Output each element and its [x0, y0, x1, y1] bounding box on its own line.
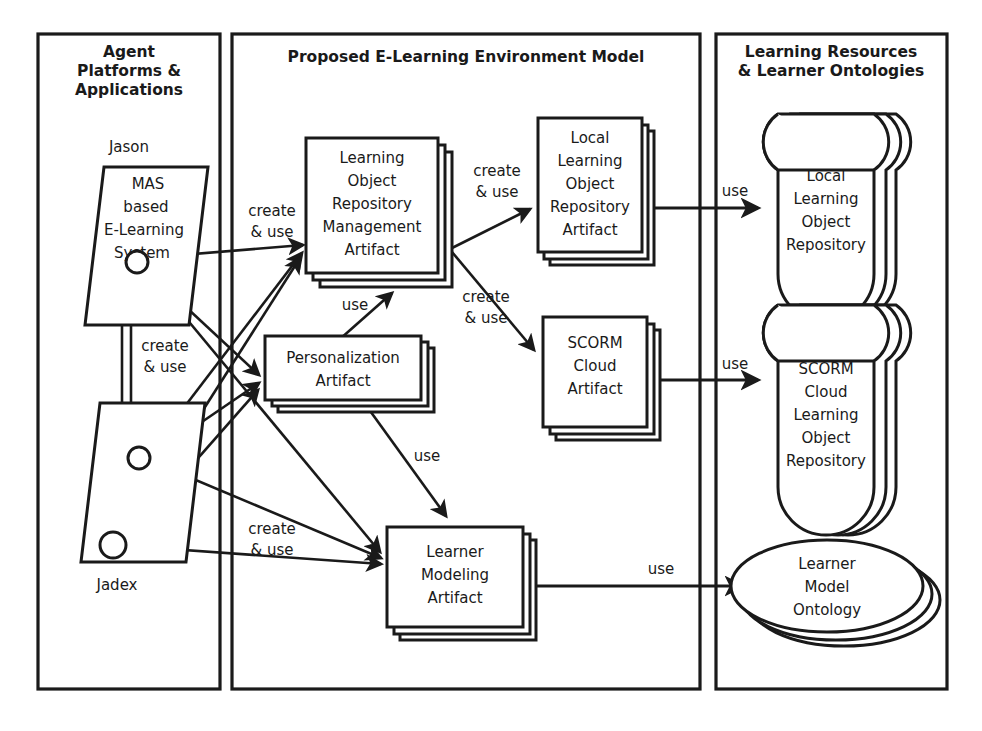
svg-text:Management: Management: [323, 218, 422, 236]
svg-text:& Learner Ontologies: & Learner Ontologies: [738, 62, 924, 80]
artifact-personalization[interactable]: Personalization Artifact: [265, 336, 434, 412]
svg-text:Local: Local: [807, 167, 846, 185]
svg-text:Artifact: Artifact: [562, 221, 617, 239]
svg-text:& use: & use: [250, 541, 293, 559]
edge-label-scorm-artifact-to-scorm-repo: use: [722, 355, 749, 373]
artifact-learner-modeling[interactable]: Learner Modeling Artifact: [387, 527, 536, 640]
svg-text:& use: & use: [464, 309, 507, 327]
svg-text:Platforms &: Platforms &: [77, 62, 181, 80]
svg-text:Learning Resources: Learning Resources: [745, 43, 917, 61]
edge-label-local-artifact-to-local-repo: use: [722, 182, 749, 200]
svg-text:Jason: Jason: [108, 138, 149, 156]
edge-label-learner-modeling-to-ontology: use: [648, 560, 675, 578]
svg-text:Model: Model: [804, 578, 849, 596]
svg-text:SCORM: SCORM: [798, 360, 853, 378]
svg-text:Repository: Repository: [550, 198, 630, 216]
svg-text:Artifact: Artifact: [427, 589, 482, 607]
svg-text:Repository: Repository: [786, 452, 866, 470]
svg-text:Object: Object: [566, 175, 615, 193]
svg-text:Artifact: Artifact: [567, 380, 622, 398]
svg-text:Cloud: Cloud: [805, 383, 848, 401]
svg-text:Artifact: Artifact: [344, 241, 399, 259]
svg-text:Object: Object: [802, 213, 851, 231]
diagram-canvas: Agent Platforms & Applications Proposed …: [0, 0, 982, 731]
svg-text:Cloud: Cloud: [574, 357, 617, 375]
svg-text:use: use: [414, 447, 441, 465]
panel-resources-ontologies-title: Learning Resources & Learner Ontologies: [738, 43, 924, 80]
jadex-parallelogram: [81, 403, 205, 562]
svg-text:Object: Object: [348, 172, 397, 190]
svg-text:Learning: Learning: [793, 190, 858, 208]
svg-text:Artifact: Artifact: [315, 372, 370, 390]
svg-text:Learning: Learning: [793, 406, 858, 424]
svg-text:Repository: Repository: [332, 195, 412, 213]
svg-text:Modeling: Modeling: [421, 566, 489, 584]
elearning-architecture-diagram: Agent Platforms & Applications Proposed …: [0, 0, 982, 731]
svg-text:Jadex: Jadex: [96, 576, 138, 594]
artifact-local-lor[interactable]: Local Learning Object Repository Artifac…: [538, 118, 654, 265]
agent-jason[interactable]: Jason MAS based E-Learning System: [85, 138, 208, 325]
svg-text:create: create: [141, 337, 189, 355]
jadex-agent-port-lower[interactable]: [100, 532, 126, 558]
svg-text:& use: & use: [143, 358, 186, 376]
svg-text:Learner: Learner: [798, 555, 856, 573]
svg-text:Ontology: Ontology: [793, 601, 861, 619]
edge-label-personalization-to-learner-modeling: use: [414, 447, 441, 465]
artifact-lor-management[interactable]: Learning Object Repository Management Ar…: [306, 138, 452, 287]
svg-text:Learning: Learning: [557, 152, 622, 170]
svg-text:& use: & use: [250, 223, 293, 241]
svg-text:Personalization: Personalization: [286, 349, 400, 367]
svg-text:Agent: Agent: [103, 43, 156, 61]
svg-text:Local: Local: [571, 129, 610, 147]
panel-environment-model-title: Proposed E-Learning Environment Model: [288, 48, 645, 66]
svg-text:create: create: [462, 288, 510, 306]
svg-text:Proposed E-Learning Environmen: Proposed E-Learning Environment Model: [288, 48, 645, 66]
repository-local-lor[interactable]: Local Learning Object Repository: [763, 114, 910, 322]
repository-scorm-cloud-lor[interactable]: SCORM Cloud Learning Object Repository: [763, 305, 910, 535]
svg-text:MAS: MAS: [132, 175, 165, 193]
svg-text:Object: Object: [802, 429, 851, 447]
artifact-scorm-cloud[interactable]: SCORM Cloud Artifact: [543, 317, 660, 440]
svg-text:Learning: Learning: [339, 149, 404, 167]
svg-text:use: use: [722, 182, 749, 200]
svg-text:Repository: Repository: [786, 236, 866, 254]
personalization-stack-front: [265, 336, 421, 400]
svg-text:create: create: [248, 520, 296, 538]
svg-text:use: use: [342, 296, 369, 314]
jason-agent-port[interactable]: [126, 251, 148, 273]
svg-text:Learner: Learner: [426, 543, 484, 561]
svg-text:SCORM: SCORM: [567, 334, 622, 352]
svg-text:& use: & use: [475, 183, 518, 201]
edge-label-personalization-to-lorm: use: [342, 296, 369, 314]
svg-text:E-Learning: E-Learning: [104, 221, 184, 239]
svg-text:create: create: [248, 202, 296, 220]
svg-text:use: use: [722, 355, 749, 373]
svg-text:Applications: Applications: [75, 81, 183, 99]
svg-text:based: based: [123, 198, 168, 216]
svg-text:create: create: [473, 162, 521, 180]
jadex-agent-port-upper[interactable]: [128, 447, 150, 469]
svg-text:use: use: [648, 560, 675, 578]
